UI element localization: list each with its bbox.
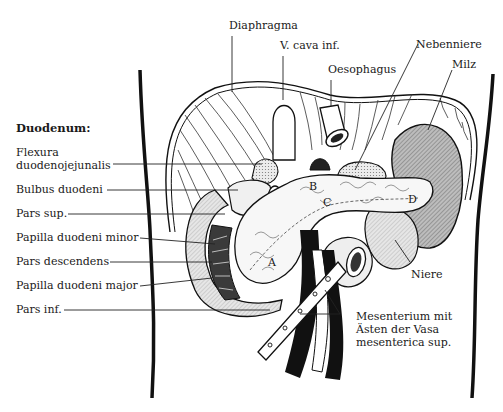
label-pars-sup: Pars sup. [16,207,67,220]
label-pars-inf: Pars inf. [16,303,62,316]
body-outline-right [472,74,493,398]
anatomy-illustration [0,0,503,412]
marker-c: C [323,196,331,209]
marker-b: B [309,180,317,193]
label-pars-descendens: Pars descendens [16,255,109,268]
label-bulbus-duodeni: Bulbus duodeni [16,183,103,196]
label-milz: Milz [452,58,476,71]
diagram-title: Duodenum: [16,122,91,135]
label-mesenterium: Mesenterium mit Ästen der Vasa mesenteri… [356,310,452,349]
label-nebenniere: Nebenniere [416,38,482,51]
label-papilla-duodeni-minor: Papilla duodeni minor [16,231,138,244]
marker-a: A [268,256,276,269]
label-oesophagus: Oesophagus [328,63,396,76]
label-flexura-duodenojejunalis: Flexura duodenojejunalis [16,146,111,172]
label-diaphragma: Diaphragma [229,19,298,32]
label-papilla-duodeni-major: Papilla duodeni major [16,279,138,292]
vena-cava [273,106,295,161]
label-v-cava-inf: V. cava inf. [280,39,340,52]
body-outline-left [140,70,154,398]
label-niere: Niere [411,268,442,281]
marker-d: D [408,193,417,206]
